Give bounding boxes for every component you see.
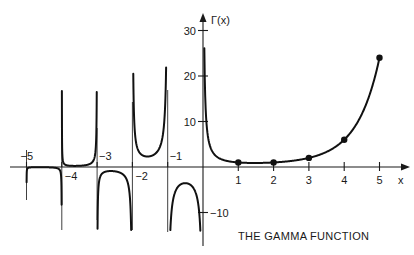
data-point (235, 159, 241, 165)
data-point (341, 137, 347, 143)
y-tick-label: 20 (184, 70, 196, 82)
x-tick-label: 3 (306, 174, 312, 186)
x-axis-ticks: −5−4−3−2−112345 (21, 150, 383, 186)
x-axis-arrow-icon (401, 164, 410, 171)
gamma-branch-curve (98, 171, 132, 230)
gamma-branch-curve (170, 183, 200, 231)
marked-points (235, 55, 383, 166)
gamma-branch-curve (27, 167, 62, 204)
gamma-branch-curve (204, 48, 379, 163)
x-tick-label: −5 (21, 150, 34, 162)
x-tick-label: −3 (99, 150, 112, 162)
x-tick-label: 4 (341, 174, 347, 186)
x-axis-label: x (398, 174, 404, 186)
chart-title: THE GAMMA FUNCTION (238, 230, 369, 242)
data-point (270, 159, 276, 165)
y-tick-label: 10 (184, 116, 196, 128)
data-point (376, 55, 382, 61)
y-axis-label: Γ(x) (211, 14, 230, 26)
gamma-branch-curve (133, 68, 166, 157)
x-tick-label: −2 (135, 170, 148, 182)
gamma-function-chart: −5−4−3−2−112345 302010−10 x Γ(x) THE GAM… (0, 0, 414, 255)
y-axis-arrow-icon (200, 13, 207, 22)
y-tick-label: 30 (184, 25, 196, 37)
gamma-branch-curve (62, 91, 97, 166)
data-point (306, 155, 312, 161)
x-tick-label: −1 (170, 150, 183, 162)
x-tick-label: 5 (376, 174, 382, 186)
x-tick-label: −4 (65, 170, 78, 182)
x-tick-label: 2 (271, 174, 277, 186)
x-tick-label: 1 (235, 174, 241, 186)
y-tick-label: −10 (210, 207, 229, 219)
